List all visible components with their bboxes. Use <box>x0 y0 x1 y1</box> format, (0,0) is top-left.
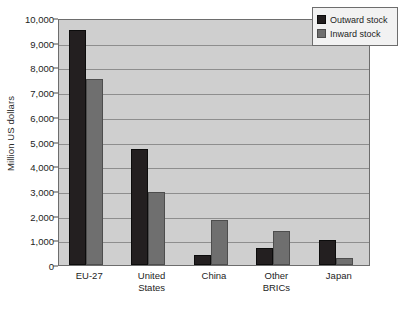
y-tick-label: 8,000 <box>30 63 54 74</box>
y-tick-label: 7,000 <box>30 88 54 99</box>
x-tick-label: Japan <box>299 270 379 282</box>
legend-item: Outward stock <box>317 13 394 26</box>
y-tick-label: 1,000 <box>30 236 54 247</box>
legend-item: Inward stock <box>317 27 394 40</box>
bar-group <box>246 20 308 265</box>
y-tick-label: 6,000 <box>30 112 54 123</box>
bar <box>86 79 103 265</box>
bar <box>256 248 273 265</box>
y-tick-label: 5,000 <box>30 137 54 148</box>
legend: Outward stockInward stock <box>312 7 398 46</box>
bar-group <box>184 20 246 265</box>
bar <box>148 192 165 265</box>
bars-layer <box>59 20 369 265</box>
x-tick-label-line: Japan <box>299 270 379 282</box>
bar-chart: Million US dollars 10,0009,0008,0007,000… <box>0 0 400 315</box>
bar-group <box>121 20 183 265</box>
y-tick-label: 10,000 <box>25 14 54 25</box>
x-tick-label-line: BRICs <box>236 282 316 294</box>
bar <box>194 255 211 265</box>
y-tick-label: 2,000 <box>30 211 54 222</box>
bar <box>69 30 86 265</box>
y-tick-label: 9,000 <box>30 38 54 49</box>
legend-label: Outward stock <box>330 15 388 25</box>
x-axis-labels: EU-27UnitedStatesChinaOtherBRICsJapan <box>58 270 370 310</box>
bar <box>336 258 353 265</box>
legend-swatch <box>317 15 326 24</box>
bar <box>211 220 228 265</box>
bar <box>273 231 290 265</box>
bar-group <box>59 20 121 265</box>
y-tick-label: 3,000 <box>30 186 54 197</box>
plot-area <box>58 19 370 266</box>
bar <box>131 149 148 265</box>
bar-group <box>309 20 371 265</box>
y-axis-title-text: Million US dollars <box>6 95 17 170</box>
y-tick-label: 4,000 <box>30 162 54 173</box>
bar <box>319 240 336 265</box>
y-axis-title: Million US dollars <box>2 0 20 266</box>
x-tick-label-line: States <box>112 282 192 294</box>
legend-swatch <box>317 29 326 38</box>
legend-label: Inward stock <box>330 29 381 39</box>
